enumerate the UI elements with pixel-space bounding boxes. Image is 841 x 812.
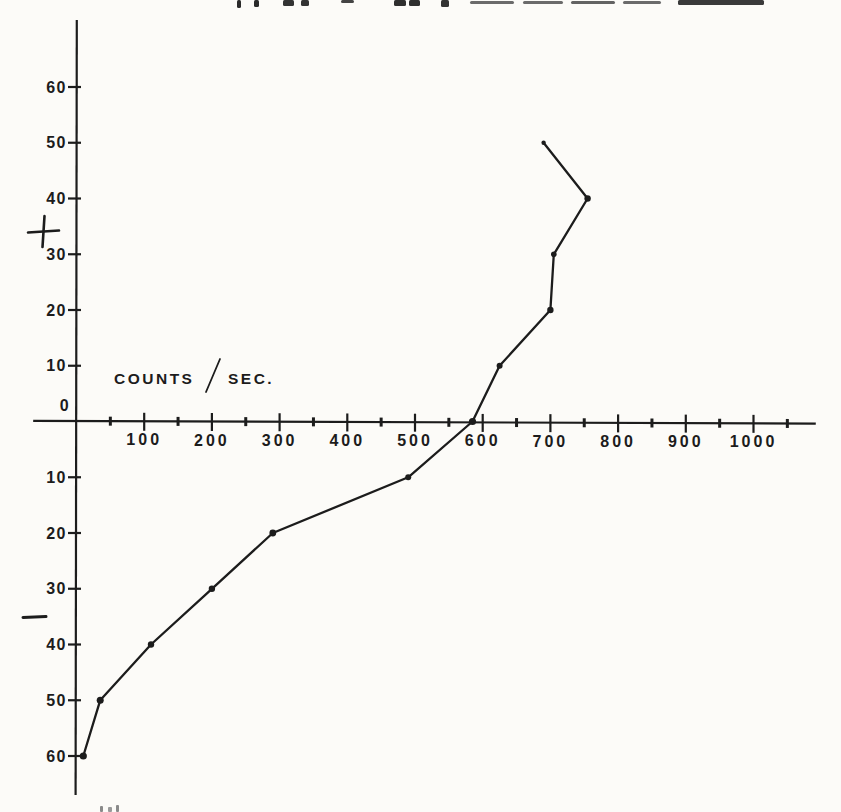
data-point [148, 641, 154, 647]
y-axis [76, 20, 77, 795]
x-tick-label: 300 [262, 432, 298, 449]
text-fragment-mark [254, 0, 259, 7]
x-tick-label: 400 [329, 432, 365, 449]
y-tick-label: 20 [46, 525, 67, 542]
text-fragment-mark [571, 1, 615, 4]
text-fragment-mark [523, 1, 563, 4]
y-tick-label: 30 [46, 246, 67, 263]
text-fragment-mark [678, 0, 764, 5]
x-tick-label: 600 [465, 432, 501, 449]
text-fragment-mark [623, 1, 661, 4]
text-fragment-mark [441, 0, 449, 7]
x-tick-label: 800 [600, 433, 636, 450]
x-tick-label: 1000 [730, 433, 778, 450]
plus-sign [28, 216, 59, 247]
y-tick-label: 40 [46, 190, 67, 207]
y-tick-label: 30 [46, 580, 67, 597]
data-point [584, 195, 590, 201]
data-point [209, 586, 215, 592]
xlabel-counts-text: COUNTS [114, 370, 194, 387]
y-tick-label: 10 [46, 469, 67, 486]
text-fragment-mark [108, 807, 112, 812]
text-fragment-mark [470, 1, 514, 4]
x-tick-label: 700 [533, 433, 569, 450]
data-point [97, 697, 104, 704]
y-tick-label: 50 [46, 692, 67, 709]
text-fragment-mark [100, 806, 103, 812]
data-point [269, 530, 276, 537]
text-fragment-mark [116, 805, 119, 812]
x-tick-label: 900 [668, 433, 704, 450]
text-fragment-mark [237, 0, 241, 8]
x-tick-label: 200 [194, 432, 230, 449]
data-point [469, 418, 476, 425]
data-point [497, 363, 503, 369]
text-fragment-mark [341, 0, 354, 3]
y-tick-label: 60 [46, 748, 67, 765]
scanned-chart-figure: 1002003004005006007008009001000605040302… [0, 0, 841, 812]
deflection-vs-counts-chart: 1002003004005006007008009001000605040302… [0, 0, 841, 812]
data-curve [83, 143, 587, 756]
text-fragment-mark [409, 0, 420, 6]
text-fragment-mark [301, 0, 309, 6]
text-fragment-mark [394, 0, 406, 6]
cropped-text-fragment-top [237, 0, 764, 8]
minus-sign [23, 617, 46, 618]
cropped-text-fragment-bottom [100, 805, 119, 812]
data-point [541, 141, 545, 145]
x-tick-label: 100 [126, 431, 162, 448]
xlabel-sec-text: SEC. [228, 370, 274, 387]
data-point [80, 752, 87, 759]
data-point [547, 307, 553, 313]
y-tick-label: 60 [46, 79, 67, 96]
y-tick-label: 50 [46, 134, 67, 151]
data-point [405, 474, 411, 480]
x-tick-label: 500 [397, 432, 433, 449]
y-tick-label: 20 [46, 302, 67, 319]
x-axis [33, 421, 816, 424]
counts-per-sec-label: COUNTSSEC. [114, 359, 274, 392]
xlabel-slash [206, 359, 220, 392]
data-point [551, 252, 557, 258]
y-tick-label: 40 [46, 636, 67, 653]
y-tick-label: 10 [46, 357, 67, 374]
text-fragment-mark [283, 0, 294, 6]
axis-origin-label: 0 [60, 397, 70, 414]
